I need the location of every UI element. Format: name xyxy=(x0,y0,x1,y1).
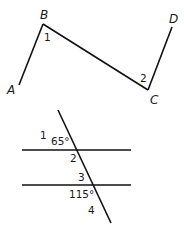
angle-label-3: 3 xyxy=(78,171,85,183)
segment-ab xyxy=(19,24,43,85)
angle-label-4: 4 xyxy=(88,204,95,216)
angle-label-1: 1 xyxy=(40,129,47,141)
angle-label-2: 2 xyxy=(140,72,147,84)
point-label-d: D xyxy=(169,12,178,26)
angle-measure-115: 115° xyxy=(69,188,94,200)
geometry-diagram: A B C D 1 2 1 65° 2 3 115° 4 xyxy=(0,0,184,234)
point-label-a: A xyxy=(6,83,15,97)
angle-label-1: 1 xyxy=(44,31,51,43)
figure-parallel-lines: 1 65° 2 3 115° 4 xyxy=(22,110,131,223)
segment-bc xyxy=(43,24,148,90)
figure-abcd: A B C D 1 2 xyxy=(6,8,178,107)
transversal-line xyxy=(58,110,111,223)
point-label-b: B xyxy=(40,8,48,22)
angle-measure-65: 65° xyxy=(51,135,70,147)
segment-cd xyxy=(148,27,172,90)
angle-label-2: 2 xyxy=(70,152,77,164)
point-label-c: C xyxy=(150,93,159,107)
